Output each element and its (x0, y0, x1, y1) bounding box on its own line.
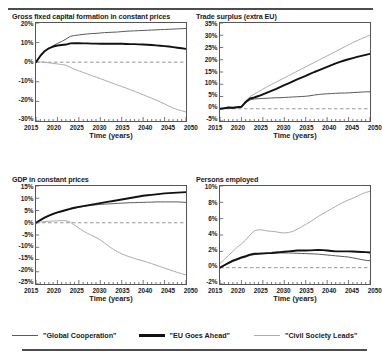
y-tick-label: 15% (21, 184, 34, 189)
chart-legend: "Global Cooperation" "EU Goes Ahead" "Ci… (12, 331, 370, 340)
series-line (220, 54, 370, 109)
legend-item-eu-goes-ahead: "EU Goes Ahead" (139, 331, 230, 340)
y-axis-tick-labels: 15%10%5%0%-5%-10%-15%-20%-25% (12, 185, 35, 285)
legend-line-icon-eu-goes-ahead (139, 334, 165, 337)
top-divider-rule (8, 8, 373, 10)
plot-area (35, 185, 187, 285)
plot-area (219, 185, 371, 285)
y-axis-tick-labels: 20%10%0%-10%-20%-30% (12, 22, 35, 122)
x-tick-label: 2015 (208, 287, 222, 294)
x-tick-label: 2015 (24, 287, 38, 294)
chart-panel-gross-fixed-capital-formation: Gross fixed capital formation in constan… (12, 12, 190, 140)
x-tick-label: 2045 (161, 287, 175, 294)
legend-item-global-cooperation: "Global Cooperation" (12, 331, 117, 340)
y-tick-label: 0% (208, 263, 217, 268)
plot-svg (220, 186, 370, 284)
series-line (36, 221, 186, 275)
y-tick-label: 6% (208, 216, 217, 221)
x-tick-label: 2020 (231, 124, 245, 131)
chart-panel-persons-employed: Persons employed 10%8%6%4%2%0%-2% 201520… (196, 175, 374, 303)
chart-panel-gdp-constant-prices: GDP in constant prices 15%10%5%0%-5%-10%… (12, 175, 190, 303)
x-tick-label: 2045 (161, 124, 175, 131)
x-tick-label: 2030 (92, 287, 106, 294)
x-tick-label: 2020 (231, 287, 245, 294)
y-tick-label: -20% (19, 97, 34, 102)
plot-svg (36, 186, 186, 284)
x-tick-label: 2015 (24, 124, 38, 131)
y-tick-label: 10% (21, 40, 34, 45)
x-axis-tick-labels: 20152020202520302035204020452050 (24, 287, 198, 294)
legend-line-icon-global-cooperation (12, 335, 38, 336)
y-tick-label: 5% (24, 208, 33, 213)
x-axis-tick-labels: 20152020202520302035204020452050 (208, 287, 382, 294)
y-tick-label: -10% (19, 243, 34, 248)
x-axis-title: Time (years) (35, 131, 187, 140)
y-tick-label: 25% (205, 45, 218, 50)
x-tick-label: 2040 (138, 287, 152, 294)
y-tick-label: -15% (19, 255, 34, 260)
y-tick-label: -20% (19, 267, 34, 272)
x-tick-label: 2040 (138, 124, 152, 131)
y-tick-label: 20% (205, 57, 218, 62)
plot-svg (36, 23, 186, 121)
series-line (220, 35, 370, 109)
chart-title: GDP in constant prices (12, 175, 190, 184)
y-tick-label: 10% (205, 184, 218, 189)
chart-panel-trade-surplus-extra-eu: Trade surplus (extra EU) 35%30%25%20%15%… (196, 12, 374, 140)
series-line (220, 253, 370, 268)
plot-svg (220, 23, 370, 121)
series-line (36, 192, 186, 223)
y-tick-label: 30% (205, 33, 218, 38)
x-axis-tick-labels: 20152020202520302035204020452050 (208, 124, 382, 131)
y-axis-tick-labels: 10%8%6%4%2%0%-2% (196, 185, 219, 285)
x-tick-label: 2035 (299, 287, 313, 294)
y-tick-label: -10% (19, 78, 34, 83)
axis-ticks (36, 23, 186, 121)
y-tick-label: 2% (208, 247, 217, 252)
x-tick-label: 2035 (115, 287, 129, 294)
chart-title: Trade surplus (extra EU) (196, 12, 374, 21)
x-tick-label: 2045 (345, 124, 359, 131)
y-tick-label: 0% (24, 59, 33, 64)
chart-title: Gross fixed capital formation in constan… (12, 12, 190, 21)
x-tick-label: 2040 (322, 124, 336, 131)
x-tick-label: 2030 (276, 287, 290, 294)
x-tick-label: 2050 (368, 124, 382, 131)
x-tick-label: 2030 (276, 124, 290, 131)
x-tick-label: 2045 (345, 287, 359, 294)
x-tick-label: 2035 (115, 124, 129, 131)
x-tick-label: 2030 (92, 124, 106, 131)
legend-label: "Civil Society Leads" (285, 331, 357, 340)
y-tick-label: -5% (22, 232, 33, 237)
y-tick-label: 4% (208, 231, 217, 236)
series-line (36, 43, 186, 62)
x-tick-label: 2025 (70, 287, 84, 294)
x-tick-label: 2025 (254, 124, 268, 131)
x-tick-label: 2020 (47, 124, 61, 131)
legend-label: "Global Cooperation" (43, 331, 117, 340)
series-line (220, 250, 370, 268)
x-axis-title: Time (years) (219, 294, 371, 303)
plot-area (35, 22, 187, 122)
x-tick-label: 2025 (70, 124, 84, 131)
y-tick-label: -30% (19, 116, 34, 121)
x-tick-label: 2050 (368, 287, 382, 294)
series-line (36, 62, 186, 112)
x-axis-tick-labels: 20152020202520302035204020452050 (24, 124, 198, 131)
y-tick-label: 0% (24, 220, 33, 225)
chart-title: Persons employed (196, 175, 374, 184)
y-tick-label: 8% (208, 200, 217, 205)
legend-item-civil-society-leads: "Civil Society Leads" (254, 331, 357, 340)
y-tick-label: 15% (205, 69, 218, 74)
x-tick-label: 2035 (299, 124, 313, 131)
y-tick-label: -5% (206, 116, 217, 121)
y-tick-label: 20% (21, 21, 34, 26)
y-tick-label: -25% (19, 279, 34, 284)
bottom-divider-rule (22, 349, 367, 351)
x-tick-label: 2025 (254, 287, 268, 294)
y-tick-label: -2% (206, 279, 217, 284)
legend-line-icon-civil-society-leads (254, 335, 280, 336)
x-axis-title: Time (years) (35, 294, 187, 303)
y-axis-tick-labels: 35%30%25%20%15%10%5%0%-5% (196, 22, 219, 122)
